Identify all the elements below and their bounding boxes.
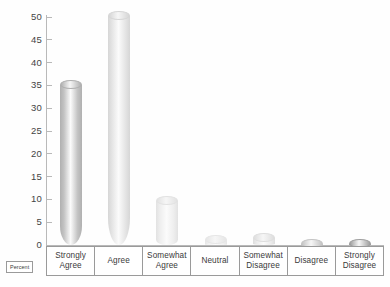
- bar: [60, 81, 82, 245]
- y-axis-tick-label: 20: [31, 148, 42, 160]
- y-axis-tick: 10: [0, 193, 52, 205]
- y-axis-tick-label: 35: [31, 79, 42, 91]
- category-label-5: SomewhatDisagree: [240, 247, 288, 275]
- bar-top-ellipse: [253, 233, 275, 242]
- category-label-text: Agree: [108, 256, 130, 266]
- category-label-1: StronglyAgree: [47, 247, 95, 275]
- category-label-text: SomewhatDisagree: [243, 251, 282, 271]
- y-axis-tick: 5: [0, 216, 52, 228]
- bar-top-ellipse: [60, 80, 82, 89]
- category-label-3: SomewhatAgree: [143, 247, 191, 275]
- bar: [108, 12, 130, 245]
- y-axis-tick-label: 25: [31, 125, 42, 137]
- bar-top-ellipse: [205, 235, 227, 244]
- y-axis-tick: 20: [0, 148, 52, 160]
- y-axis-tick-label: 30: [31, 102, 42, 114]
- category-label-text: StronglyAgree: [55, 251, 86, 271]
- y-axis-tick: 35: [0, 79, 52, 91]
- category-label-7: StronglyDisagree: [336, 247, 384, 275]
- category-label-text: SomewhatAgree: [147, 251, 186, 271]
- plot-area: [47, 8, 384, 245]
- y-axis-tick-label: 0: [37, 239, 42, 251]
- y-axis-tick: 40: [0, 57, 52, 69]
- y-axis-tick: 25: [0, 125, 52, 137]
- y-axis-tick-label: 45: [31, 34, 42, 46]
- category-label-4: Neutral: [191, 247, 239, 275]
- y-axis-tick: 0: [0, 239, 52, 251]
- bar: [253, 234, 275, 245]
- y-axis-tick-label: 40: [31, 57, 42, 69]
- bar: [349, 240, 371, 245]
- bar: [301, 240, 323, 245]
- y-axis-tick: 45: [0, 34, 52, 46]
- bar: [156, 197, 178, 245]
- category-label-text: Neutral: [201, 256, 228, 266]
- bar-body: [60, 85, 82, 245]
- y-axis-tick: 50: [0, 11, 52, 23]
- y-axis-tick-label: 15: [31, 171, 42, 183]
- category-label-text: StronglyDisagree: [343, 251, 377, 271]
- category-axis-labels: StronglyAgreeAgreeSomewhatAgreeNeutralSo…: [46, 246, 384, 276]
- category-label-6: Disagree: [288, 247, 336, 275]
- category-label-2: Agree: [95, 247, 143, 275]
- y-axis-tick: 15: [0, 171, 52, 183]
- bar-chart: 05101520253035404550 StronglyAgreeAgreeS…: [0, 0, 390, 287]
- bar: [205, 236, 227, 245]
- y-axis-tick: 30: [0, 102, 52, 114]
- y-axis-tick-label: 10: [31, 193, 42, 205]
- y-axis-tick-label: 5: [37, 216, 42, 228]
- percent-axis-label: Percent: [6, 261, 33, 273]
- bar-body: [108, 16, 130, 245]
- y-axis-tick-label: 50: [31, 11, 42, 23]
- category-label-text: Disagree: [294, 256, 328, 266]
- bar-body: [156, 201, 178, 245]
